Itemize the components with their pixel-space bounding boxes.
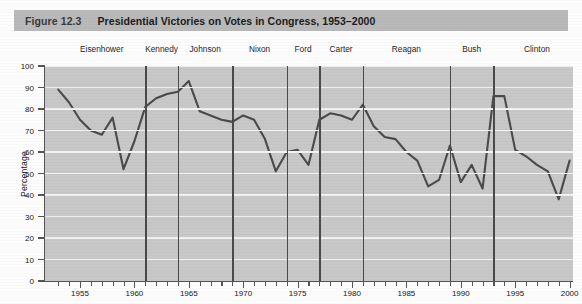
x-tick-1978 [330, 282, 331, 286]
x-tick-1987 [428, 282, 429, 286]
x-tick-1993 [493, 282, 494, 286]
president-label-carter: Carter [330, 44, 353, 54]
x-tick-1997 [537, 282, 538, 286]
x-axis-tick-label-1960: 1960 [125, 289, 143, 298]
president-label-eisenhower: Eisenhower [80, 44, 123, 54]
y-tick-80 [38, 108, 44, 109]
y-axis-tick-label-60: 60 [12, 148, 34, 157]
y-axis-tick-label-0: 0 [12, 277, 34, 286]
y-tick-10 [38, 259, 44, 260]
x-tick-1995 [515, 282, 516, 288]
x-axis-tick-label-1955: 1955 [71, 289, 89, 298]
x-tick-1979 [341, 282, 342, 286]
y-axis-tick-label-90: 90 [12, 83, 34, 92]
x-tick-1970 [243, 282, 244, 288]
y-axis-tick-label-30: 30 [12, 212, 34, 221]
y-axis-tick-label-50: 50 [12, 169, 34, 178]
x-tick-1971 [254, 282, 255, 286]
figure-number: Figure 12.3 [25, 15, 82, 27]
president-divider-ford [287, 66, 288, 281]
chart-plot-area [45, 66, 573, 281]
x-tick-2000 [570, 282, 571, 288]
y-axis-tick-label-70: 70 [12, 126, 34, 135]
x-tick-1964 [178, 282, 179, 286]
x-tick-1976 [308, 282, 309, 286]
x-tick-1990 [461, 282, 462, 288]
y-axis-tick-label-80: 80 [12, 105, 34, 114]
x-tick-1988 [439, 282, 440, 286]
x-tick-1984 [396, 282, 397, 286]
x-tick-1955 [80, 282, 81, 288]
y-tick-70 [38, 130, 44, 131]
president-label-clinton: Clinton [524, 44, 550, 54]
y-axis-tick-label-100: 100 [12, 62, 34, 71]
x-tick-1986 [417, 282, 418, 286]
y-axis-line [44, 65, 45, 282]
x-axis-tick-label-1980: 1980 [343, 289, 361, 298]
y-tick-50 [38, 173, 44, 174]
y-tick-30 [38, 216, 44, 217]
x-tick-1962 [156, 282, 157, 286]
x-axis-tick-label-1985: 1985 [397, 289, 415, 298]
x-tick-1982 [374, 282, 375, 286]
x-tick-1998 [548, 282, 549, 286]
x-tick-1960 [134, 282, 135, 288]
president-label-reagan: Reagan [392, 44, 421, 54]
x-tick-1958 [113, 282, 114, 286]
x-tick-1957 [102, 282, 103, 286]
president-divider-carter [319, 66, 320, 281]
figure-container: Figure 12.3 Presidential Victories on Vo… [0, 0, 582, 304]
x-tick-1974 [287, 282, 288, 286]
x-tick-1994 [504, 282, 505, 286]
x-axis-tick-label-1975: 1975 [289, 289, 307, 298]
x-tick-1980 [352, 282, 353, 288]
x-axis-tick-label-1965: 1965 [180, 289, 198, 298]
x-tick-1985 [406, 282, 407, 288]
x-tick-1966 [200, 282, 201, 286]
president-label-kennedy: Kennedy [145, 44, 178, 54]
president-divider-reagan [363, 66, 364, 281]
y-tick-60 [38, 151, 44, 152]
x-tick-1983 [385, 282, 386, 286]
president-label-bush: Bush [462, 44, 481, 54]
x-tick-1972 [265, 282, 266, 286]
president-divider-johnson [178, 66, 179, 281]
x-tick-1975 [298, 282, 299, 288]
x-tick-1992 [483, 282, 484, 286]
president-label-ford: Ford [295, 44, 312, 54]
x-axis-tick-label-1970: 1970 [234, 289, 252, 298]
y-axis-tick-label-20: 20 [12, 234, 34, 243]
y-tick-20 [38, 237, 44, 238]
x-axis-tick-label-1995: 1995 [506, 289, 524, 298]
x-tick-1965 [189, 282, 190, 288]
x-axis-tick-label-1990: 1990 [452, 289, 470, 298]
president-label-nixon: Nixon [249, 44, 270, 54]
y-tick-40 [38, 194, 44, 195]
x-tick-1968 [221, 282, 222, 286]
x-tick-1963 [167, 282, 168, 286]
x-tick-1977 [319, 282, 320, 286]
x-tick-1959 [124, 282, 125, 286]
x-tick-1989 [450, 282, 451, 286]
y-axis-tick-label-40: 40 [12, 191, 34, 200]
president-label-strip: EisenhowerKennedyJohnsonNixonFordCarterR… [0, 44, 582, 60]
x-axis-tick-label-2000: 2000 [561, 289, 579, 298]
x-tick-1956 [91, 282, 92, 286]
president-divider-clinton [493, 66, 494, 281]
x-tick-1967 [211, 282, 212, 286]
figure-title-band: Figure 12.3 Presidential Victories on Vo… [14, 10, 568, 31]
y-axis-tick-label-10: 10 [12, 255, 34, 264]
x-tick-1973 [276, 282, 277, 286]
president-label-johnson: Johnson [189, 44, 220, 54]
y-tick-0 [38, 280, 44, 281]
president-divider-bush [450, 66, 451, 281]
page-title: Presidential Victories on Votes in Congr… [98, 15, 376, 27]
president-divider-nixon [232, 66, 233, 281]
y-tick-100 [38, 65, 44, 66]
x-tick-1999 [559, 282, 560, 286]
y-tick-90 [38, 87, 44, 88]
x-tick-1961 [145, 282, 146, 286]
x-tick-1981 [363, 282, 364, 286]
x-tick-1953 [58, 282, 59, 286]
x-tick-1954 [69, 282, 70, 286]
